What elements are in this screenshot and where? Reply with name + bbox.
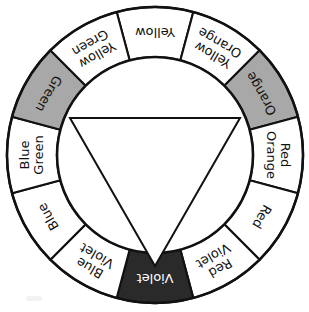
label-line: Blue — [17, 141, 32, 170]
page-smudge — [26, 296, 42, 301]
label-line: Violet — [137, 272, 174, 287]
segment-label-blue-green: BlueGreen — [17, 135, 46, 174]
label-line: Red — [279, 143, 294, 168]
label-line: Green — [31, 135, 46, 174]
color-wheel-svg: YellowYellowOrangeOrangeRedOrangeRedRedV… — [0, 0, 309, 312]
label-line: Yellow — [135, 26, 176, 41]
segment-label-yellow: Yellow — [135, 26, 176, 41]
segment-label-violet: Violet — [137, 272, 174, 287]
label-line: Orange — [265, 131, 280, 179]
color-wheel-figure: YellowYellowOrangeOrangeRedOrangeRedRedV… — [0, 0, 309, 312]
